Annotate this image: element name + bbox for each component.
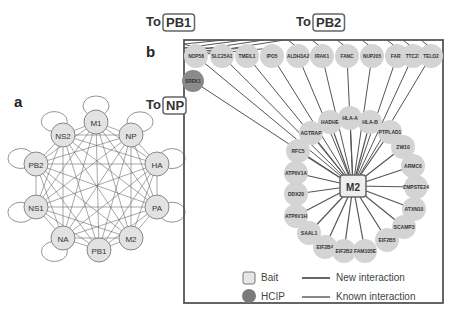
node-label: HADHE <box>321 119 339 125</box>
node-slc25a1: SLC25A1 <box>210 44 234 68</box>
legend-new-interaction-label: New interaction <box>336 272 405 283</box>
legend: Bait HCIP New interaction Known interact… <box>242 272 416 303</box>
node-label: TELO2 <box>423 54 439 59</box>
node-m1: M1 <box>84 110 108 134</box>
node-m2: M2 <box>119 226 143 250</box>
bait-node-m2-label: M2 <box>346 182 360 193</box>
to-target: PB2 <box>316 15 341 30</box>
node-label: IPO5 <box>267 54 278 59</box>
panel-b-label: b <box>146 43 155 60</box>
node-srek1: SREK1 <box>182 70 204 92</box>
node-nop58: NOP58 <box>184 44 208 68</box>
node-label: PB2 <box>28 161 44 170</box>
diagram-canvas: a M1NS2NPPB2HANS1PANAPB1M2 b NOP58SLC25A… <box>0 0 456 318</box>
bait-node-m2: M2 <box>340 175 366 197</box>
node-label: ZMPSTE24 <box>403 184 429 190</box>
node-label: EIF2B2 <box>336 248 353 254</box>
node-nup205: NUP205 <box>360 44 384 68</box>
node-label: PB1 <box>91 247 107 256</box>
node-label: HA <box>151 161 163 170</box>
panel-b: b NOP58SLC25A1TMEIL1IPO5ALDH3A2IRAK1FANC… <box>146 14 443 303</box>
to-pb2-label: ToPB2 <box>296 14 345 31</box>
node-label: FANC <box>340 54 354 59</box>
node-ns2: NS2 <box>51 123 75 147</box>
node-telo2: TELO2 <box>419 44 443 68</box>
node-atp6v1a: ATP6V1A <box>284 161 308 185</box>
node-zmpste24: ZMPSTE24 <box>403 175 429 199</box>
panel-a-label: a <box>14 93 23 110</box>
node-label: ARMC6 <box>404 163 422 169</box>
node-pb2: PB2 <box>24 152 48 176</box>
node-ha: HA <box>145 152 169 176</box>
legend-hcip-label: HCIP <box>261 291 285 302</box>
hcip-circle-icon <box>242 289 256 303</box>
node-label: IRAK1 <box>315 54 330 59</box>
node-label: SAAL1 <box>301 230 318 236</box>
node-armc6: ARMC6 <box>401 154 425 178</box>
panel-a: a M1NS2NPPB2HANS1PANAPB1M2 <box>8 93 185 262</box>
node-label: ATXN10 <box>405 206 424 212</box>
node-label: NS1 <box>28 204 44 213</box>
node-fam105e: FAM105E <box>353 239 377 263</box>
node-np: NP <box>119 123 143 147</box>
node-ddx20: DDX20 <box>284 182 308 206</box>
node-label: ATP6V1A <box>285 170 308 176</box>
node-irak1: IRAK1 <box>310 44 334 68</box>
node-label: PA <box>152 204 163 213</box>
node-label: NP <box>125 132 136 141</box>
edge-pb2-m2 <box>36 164 131 238</box>
to-prefix: To <box>146 97 161 112</box>
node-label: M2 <box>125 235 137 244</box>
edge-ns1-m2 <box>36 207 131 238</box>
node-aldh3a2: ALDH3A2 <box>286 44 310 68</box>
to-target: PB1 <box>166 15 191 30</box>
node-label: M1 <box>90 119 102 128</box>
node-tmeil1: TMEIL1 <box>235 44 259 68</box>
to-np-label: ToNP <box>146 97 186 114</box>
bait-square-icon <box>243 272 255 284</box>
node-label: EIF2B4 <box>317 244 334 250</box>
to-pb1-label: ToPB1 <box>146 14 195 31</box>
node-label: SLC25A1 <box>211 54 232 59</box>
node-pa: PA <box>145 195 169 219</box>
node-rfc5: RFC5 <box>286 139 310 163</box>
node-eif2b2: EIF2B2 <box>332 239 356 263</box>
node-hla-a: HLA-A <box>338 106 362 130</box>
node-label: SCAMP3 <box>394 224 415 230</box>
node-label: HLA-A <box>342 115 358 121</box>
node-ns1: NS1 <box>24 195 48 219</box>
edge-np-ns1 <box>36 135 131 207</box>
node-na: NA <box>51 226 75 250</box>
node-label: NOP58 <box>188 54 204 59</box>
legend-known-interaction-label: Known interaction <box>336 291 416 302</box>
node-eif2b5: EIF2B5 <box>375 228 399 252</box>
node-label: NUP205 <box>363 54 381 59</box>
to-prefix: To <box>146 14 161 29</box>
node-label: TMEIL1 <box>238 54 255 59</box>
edge-ha-na <box>63 164 157 238</box>
node-label: NS2 <box>55 132 71 141</box>
node-label: AGTRAP <box>300 130 322 136</box>
node-fanc: FANC <box>335 44 359 68</box>
to-prefix: To <box>296 14 311 29</box>
node-label: ATP6V1H <box>285 213 308 219</box>
node-label: HLA-B <box>362 119 378 125</box>
node-pb1: PB1 <box>87 238 111 262</box>
node-label: ZW10 <box>396 144 410 150</box>
node-label: NA <box>57 235 69 244</box>
to-target: NP <box>166 98 184 113</box>
node-label: DDX20 <box>288 191 304 197</box>
node-label: EIF2B5 <box>379 237 396 243</box>
node-label: SREK1 <box>185 79 201 84</box>
node-label: RFC5 <box>291 148 304 154</box>
node-label: PTPLAD1 <box>379 129 402 135</box>
node-label: TTC27 <box>406 54 421 59</box>
node-label: ALDH3A2 <box>287 54 309 59</box>
node-label: FAM105E <box>354 248 377 254</box>
legend-bait-label: Bait <box>261 272 278 283</box>
node-ipo5: IPO5 <box>260 44 284 68</box>
edge-ns2-ha <box>63 135 157 164</box>
